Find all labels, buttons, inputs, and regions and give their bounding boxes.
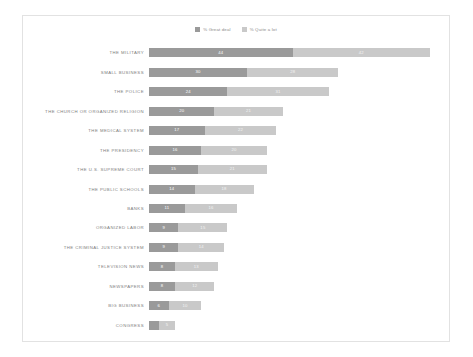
bar-segment[interactable]: 16 <box>149 146 201 155</box>
category-label: ORGANIZED LABOR <box>23 225 149 230</box>
legend-item-quite-a-lot[interactable]: % Quite a lot <box>242 27 277 32</box>
bar-value-label: 21 <box>246 109 251 113</box>
stacked-bar: 35 <box>149 321 449 330</box>
bar-value-label: 12 <box>192 284 197 288</box>
chart-row: THE CRIMINAL JUSTICE SYSTEM914 <box>23 243 449 252</box>
chart-container: % Great deal % Quite a lot THE MILITARY4… <box>22 15 450 342</box>
chart-row: SMALL BUSINESS3028 <box>23 68 449 77</box>
bar-segment[interactable]: 14 <box>149 185 195 194</box>
category-label: THE PRESIDENCY <box>23 148 149 153</box>
bar-value-label: 8 <box>161 265 164 269</box>
bar-segment[interactable]: 3 <box>149 321 159 330</box>
chart-legend: % Great deal % Quite a lot <box>23 27 449 32</box>
stacked-bar: 3028 <box>149 68 449 77</box>
bar-value-label: 31 <box>275 90 280 94</box>
bar-segment[interactable]: 16 <box>185 204 237 213</box>
bar-segment[interactable]: 28 <box>247 68 338 77</box>
bar-segment[interactable]: 22 <box>205 126 277 135</box>
category-label: CONGRESS <box>23 323 149 328</box>
bar-segment[interactable]: 21 <box>214 107 283 116</box>
chart-row: THE MEDICAL SYSTEM1722 <box>23 126 449 135</box>
bar-segment[interactable]: 15 <box>149 165 198 174</box>
bar-value-label: 30 <box>195 70 200 74</box>
bar-value-label: 9 <box>162 226 165 230</box>
bar-segment[interactable]: 10 <box>169 301 202 310</box>
bar-value-label: 15 <box>200 226 205 230</box>
bar-value-label: 10 <box>182 304 187 308</box>
bar-segment[interactable]: 42 <box>293 48 430 57</box>
bar-segment[interactable]: 17 <box>149 126 205 135</box>
stacked-bar: 610 <box>149 301 449 310</box>
plot-area: THE MILITARY4442SMALL BUSINESS3028THE PO… <box>23 43 449 335</box>
stacked-bar: 812 <box>149 282 449 291</box>
bar-segment[interactable]: 44 <box>149 48 293 57</box>
bar-segment[interactable]: 31 <box>227 87 328 96</box>
bar-value-label: 20 <box>179 109 184 113</box>
bar-value-label: 16 <box>209 206 214 210</box>
chart-row: THE MILITARY4442 <box>23 48 449 57</box>
stacked-bar: 915 <box>149 223 449 232</box>
chart-row: THE PUBLIC SCHOOLS1418 <box>23 185 449 194</box>
bar-value-label: 6 <box>158 304 161 308</box>
bar-value-label: 28 <box>290 70 295 74</box>
bar-segment[interactable]: 8 <box>149 282 175 291</box>
bar-value-label: 15 <box>171 167 176 171</box>
bar-segment[interactable]: 14 <box>178 243 224 252</box>
bar-segment[interactable]: 18 <box>195 185 254 194</box>
bar-value-label: 17 <box>174 128 179 132</box>
bar-value-label: 13 <box>194 265 199 269</box>
chart-row: BIG BUSINESS610 <box>23 301 449 310</box>
bar-value-label: 9 <box>162 245 165 249</box>
bar-segment[interactable]: 9 <box>149 243 178 252</box>
chart-row: THE CHURCH OR ORGANIZED RELIGION2021 <box>23 107 449 116</box>
bar-segment[interactable]: 20 <box>201 146 266 155</box>
category-label: THE CHURCH OR ORGANIZED RELIGION <box>23 109 149 114</box>
chart-row: NEWSPAPERS812 <box>23 282 449 291</box>
stacked-bar: 1620 <box>149 146 449 155</box>
chart-row: THE POLICE2431 <box>23 87 449 96</box>
bar-value-label: 21 <box>230 167 235 171</box>
bar-value-label: 42 <box>359 51 364 55</box>
category-label: THE MILITARY <box>23 50 149 55</box>
legend-item-great-deal[interactable]: % Great deal <box>195 27 230 32</box>
bar-segment[interactable]: 21 <box>198 165 267 174</box>
bar-segment[interactable]: 20 <box>149 107 214 116</box>
bar-value-label: 18 <box>222 187 227 191</box>
stacked-bar: 4442 <box>149 48 449 57</box>
stacked-bar: 1722 <box>149 126 449 135</box>
chart-row: ORGANIZED LABOR915 <box>23 223 449 232</box>
bar-value-label: 8 <box>161 284 164 288</box>
category-label: BANKS <box>23 206 149 211</box>
bar-segment[interactable]: 11 <box>149 204 185 213</box>
bar-segment[interactable]: 5 <box>159 321 175 330</box>
bar-value-label: 24 <box>186 90 191 94</box>
chart-row: CONGRESS35 <box>23 321 449 330</box>
bar-segment[interactable]: 12 <box>175 282 214 291</box>
chart-row: BANKS1116 <box>23 204 449 213</box>
chart-row: THE U.S. SUPREME COURT1521 <box>23 165 449 174</box>
bar-segment[interactable]: 13 <box>175 262 217 271</box>
category-label: THE U.S. SUPREME COURT <box>23 167 149 172</box>
bar-segment[interactable]: 9 <box>149 223 178 232</box>
bar-segment[interactable]: 15 <box>178 223 227 232</box>
bar-segment[interactable]: 30 <box>149 68 247 77</box>
legend-label-quite-a-lot: % Quite a lot <box>250 27 277 32</box>
bar-value-label: 16 <box>173 148 178 152</box>
bar-value-label: 14 <box>169 187 174 191</box>
stacked-bar: 1418 <box>149 185 449 194</box>
bar-value-label: 5 <box>166 323 169 327</box>
legend-swatch-quite-a-lot <box>242 27 247 32</box>
legend-label-great-deal: % Great deal <box>203 27 230 32</box>
stacked-bar: 2431 <box>149 87 449 96</box>
bar-segment[interactable]: 8 <box>149 262 175 271</box>
category-label: TELEVISION NEWS <box>23 264 149 269</box>
bar-value-label: 11 <box>165 206 170 210</box>
bar-segment[interactable]: 6 <box>149 301 169 310</box>
category-label: THE POLICE <box>23 89 149 94</box>
legend-swatch-great-deal <box>195 27 200 32</box>
chart-row: TELEVISION NEWS813 <box>23 262 449 271</box>
bar-value-label: 44 <box>218 51 223 55</box>
bar-segment[interactable]: 24 <box>149 87 227 96</box>
category-label: THE CRIMINAL JUSTICE SYSTEM <box>23 245 149 250</box>
bar-value-label: 14 <box>199 245 204 249</box>
